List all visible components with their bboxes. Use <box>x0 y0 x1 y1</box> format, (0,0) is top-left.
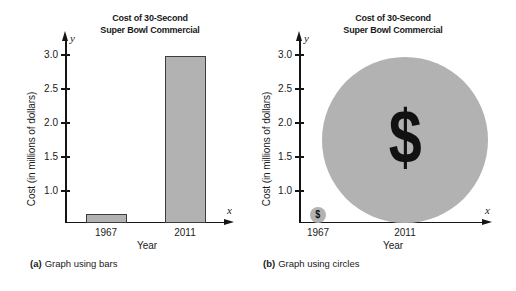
y-axis-letter: y <box>304 33 309 44</box>
dollar-sign-icon: $ <box>315 210 320 220</box>
circle-1967: $ <box>310 207 326 223</box>
y-tick-mark <box>295 54 305 56</box>
y-tick-label: 3.0 <box>262 49 292 61</box>
caption-b-text: Graph using circles <box>278 258 359 269</box>
caption-b-label: (b) <box>263 258 275 269</box>
y-tick-mark <box>295 88 305 90</box>
chart-title-line-1: Cost of 30-Second <box>343 12 442 24</box>
y-tick-label: 2.0 <box>262 117 292 129</box>
y-axis-arrow-icon <box>296 31 302 41</box>
x-axis-title: Year <box>383 240 403 251</box>
category-label-1967: 1967 <box>307 227 329 238</box>
y-tick-label: 1.0 <box>262 185 292 197</box>
y-tick-mark <box>295 122 305 124</box>
dollar-sign-icon: $ <box>389 99 422 175</box>
y-axis-line <box>299 41 301 222</box>
chart-title-line-2: Super Bowl Commercial <box>343 24 442 36</box>
caption-b: (b)Graph using circles <box>263 258 359 269</box>
figure-super-bowl-commercial: Cost of 30-Second Super Bowl Commercial … <box>0 0 516 291</box>
category-label-2011: 2011 <box>394 227 416 238</box>
chart-title: Cost of 30-Second Super Bowl Commercial <box>343 12 442 36</box>
y-tick-label: 2.5 <box>262 83 292 95</box>
circle-2011: $ <box>322 57 488 223</box>
panel-circle-graph: Cost of 30-Second Super Bowl Commercial … <box>0 0 516 291</box>
x-axis-letter: x <box>485 205 490 216</box>
y-tick-label: 1.5 <box>262 151 292 163</box>
x-axis-arrow-icon <box>482 219 492 225</box>
y-tick-mark <box>295 190 305 192</box>
y-tick-mark <box>295 156 305 158</box>
